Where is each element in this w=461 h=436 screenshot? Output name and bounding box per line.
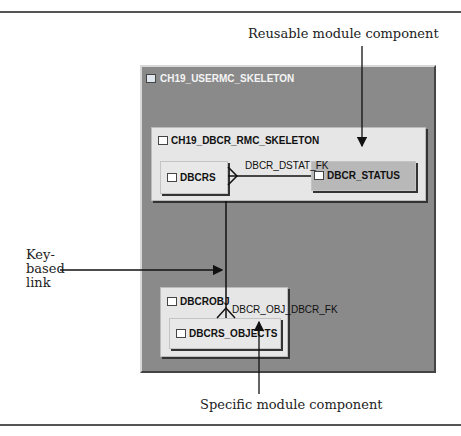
connector-lines [0, 0, 461, 436]
